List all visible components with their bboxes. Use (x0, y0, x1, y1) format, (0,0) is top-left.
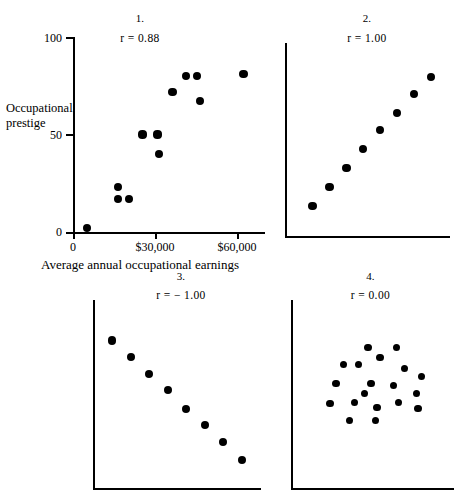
data-point (364, 344, 371, 351)
data-point (418, 373, 425, 380)
panel-1-ytick-label-100: 100 (18, 32, 62, 44)
data-point (182, 405, 190, 413)
data-point (413, 390, 420, 397)
panel-1-ytick-label-0: 0 (18, 226, 62, 238)
data-point (182, 72, 190, 80)
data-point (325, 183, 333, 191)
data-point (376, 354, 383, 361)
data-point (395, 399, 402, 406)
data-point (155, 150, 163, 158)
data-point (127, 353, 135, 361)
data-point (201, 421, 209, 429)
data-point (114, 195, 122, 203)
data-point (168, 88, 176, 96)
panel-1-xtick-30000 (155, 232, 157, 239)
data-point (355, 361, 362, 368)
data-point (114, 183, 122, 191)
data-point (346, 417, 353, 424)
data-point (342, 164, 350, 172)
panel-1-xtick-60000 (237, 232, 239, 239)
data-point (326, 400, 333, 407)
panel-3-y-axis-line (93, 300, 95, 490)
data-point (239, 70, 247, 78)
data-point (83, 224, 91, 232)
data-point (376, 126, 384, 134)
data-point (361, 390, 368, 397)
data-point (414, 405, 421, 412)
data-point (332, 380, 339, 387)
data-point (367, 380, 374, 387)
panel-1-xtick-0 (73, 232, 75, 239)
data-point (153, 130, 161, 138)
data-point (108, 336, 116, 344)
panel-1-xtick-label-0: 0 (53, 241, 93, 253)
panel-3-perfect-negative: 3. r = − 1.00 (86, 266, 276, 498)
panel-4-plot-area (284, 266, 457, 498)
panel-1-y-axis-line (73, 37, 75, 234)
panel-1-y-axis-title-line2: prestige (6, 116, 46, 130)
panel-2-x-axis-line (285, 236, 450, 238)
panel-2-perfect-positive: 2. r = 1.00 (277, 6, 457, 268)
data-point (125, 195, 133, 203)
data-point (219, 438, 227, 446)
data-point (393, 109, 401, 117)
panel-1-xtick-label-30000: $30,000 (113, 241, 197, 253)
data-point (390, 382, 397, 389)
panel-1-ytick-100 (66, 37, 73, 39)
data-point (410, 90, 418, 98)
panel-1-occupational-prestige: 1. r = 0.88 100 50 0 0 $30,000 $60,000 O… (0, 6, 280, 268)
data-point (401, 365, 408, 372)
panel-1-ytick-50 (66, 134, 73, 136)
data-point (138, 130, 146, 138)
data-point (308, 202, 316, 210)
panel-2-y-axis-line (285, 43, 287, 238)
data-point (351, 399, 358, 406)
data-point (196, 97, 204, 105)
data-point (427, 73, 435, 81)
panel-3-plot-area (86, 266, 276, 498)
panel-4-y-axis-line (291, 300, 293, 490)
data-point (238, 456, 246, 464)
data-point (372, 417, 379, 424)
panel-4-x-axis-line (291, 488, 454, 490)
data-point (340, 361, 347, 368)
data-point (193, 72, 201, 80)
panel-1-plot-area: 100 50 0 0 $30,000 $60,000 Occupational … (0, 6, 280, 268)
panel-2-plot-area (277, 6, 457, 268)
data-point (145, 370, 153, 378)
data-point (359, 145, 367, 153)
panel-1-ytick-0 (66, 232, 73, 234)
data-point (393, 344, 400, 351)
panel-3-x-axis-line (93, 488, 261, 490)
correlation-scatterplot-figure: 1. r = 0.88 100 50 0 0 $30,000 $60,000 O… (0, 0, 457, 498)
panel-1-y-axis-title-line1: Occupational (6, 101, 73, 115)
panel-4-zero-correlation: 4. r = 0.00 (284, 266, 457, 498)
panel-1-ytick-label-50: 50 (18, 129, 62, 141)
data-point (164, 386, 172, 394)
panel-1-xtick-label-60000: $60,000 (195, 241, 279, 253)
data-point (373, 404, 380, 411)
